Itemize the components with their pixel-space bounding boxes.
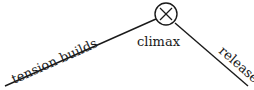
label-tension-builds: tension builds: [9, 35, 100, 86]
label-climax: climax: [137, 34, 181, 49]
circled-x-icon: [155, 3, 177, 25]
story-arc-diagram: tension builds climax release: [0, 0, 254, 90]
arc-canvas: tension builds climax release: [0, 0, 254, 90]
label-release: release: [216, 43, 254, 86]
